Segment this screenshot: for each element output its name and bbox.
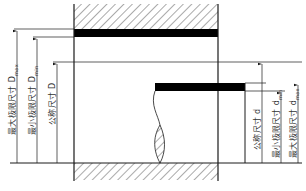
label-dmin: 最小极限尺寸 dmin <box>270 90 283 158</box>
top-hatch <box>74 4 218 29</box>
label-Dmin: 最小极限尺寸 Dmin <box>26 66 39 135</box>
label-D: 公称尺寸 D <box>46 82 59 125</box>
hole-tolerance-band <box>74 29 218 37</box>
break-line <box>153 91 160 125</box>
label-dmax: 最大极限尺寸 dmax <box>287 88 300 158</box>
label-d: 公称尺寸 d <box>251 109 264 150</box>
label-Dmax: 最大极限尺寸 Dmax <box>6 64 19 135</box>
shaft-tolerance-band <box>155 83 245 91</box>
break-section <box>155 125 165 163</box>
bottom-hatch <box>74 163 218 180</box>
